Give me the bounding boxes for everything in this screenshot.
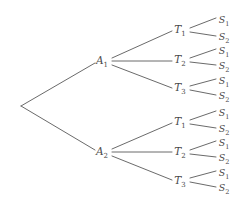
tree-edge-A2T2-A2T2S1 [190, 141, 216, 150]
tree-node-label-A1T3S2: S2 [219, 90, 230, 104]
tree-node-label-A2T2: T2 [174, 145, 185, 160]
tree-node-label-A2T3: T3 [174, 174, 185, 189]
tree-node-label-A2T1S1: S1 [219, 107, 230, 121]
tree-node-label-A1T1: T1 [174, 23, 185, 38]
tree-edge-A2T2-A2T2S2 [190, 154, 216, 157]
tree-node-label-A2T2S2: S2 [219, 152, 230, 166]
tree-edge-A2T1-A2T1S1 [190, 111, 216, 120]
tree-edge-A2T3-A2T3S1 [190, 171, 216, 178]
tree-edge-A1T2-A1T2S2 [190, 62, 216, 65]
tree-edge-A1T3-A1T3S1 [190, 79, 216, 86]
tree-edge-A2-A2T1 [112, 123, 172, 149]
tree-diagram: A1A2T1T2T3T1T2T3S1S2S1S2S1S2S1S2S1S2S1S2 [0, 0, 244, 205]
tree-edge-A1-A1T3 [112, 65, 172, 88]
tree-node-label-A1T2S1: S1 [219, 45, 230, 59]
tree-node-label-A2T3S1: S1 [219, 167, 230, 181]
tree-node-label-A1: A1 [95, 54, 108, 69]
tree-edge-A2T1-A2T1S2 [190, 124, 216, 128]
tree-diagram-canvas: A1A2T1T2T3T1T2T3S1S2S1S2S1S2S1S2S1S2S1S2 [0, 0, 244, 205]
tree-node-label-A1T2S2: S2 [219, 60, 230, 74]
node-layer: A1A2T1T2T3T1T2T3S1S2S1S2S1S2S1S2S1S2S1S2 [95, 14, 229, 196]
tree-node-label-A1T1S1: S1 [219, 14, 230, 28]
tree-edge-A2T3-A2T3S2 [190, 182, 216, 187]
tree-node-label-A2T1S2: S2 [219, 123, 230, 137]
tree-node-label-A2T3S2: S2 [219, 182, 230, 196]
tree-edge-A1T1-A1T1S1 [190, 18, 216, 28]
tree-edge-A1T3-A1T3S2 [190, 90, 216, 95]
tree-node-label-A1T1S2: S2 [219, 31, 230, 45]
tree-node-label-A1T2: T2 [174, 53, 185, 68]
tree-node-label-A1T3S1: S1 [219, 75, 230, 89]
tree-edge-root-A2 [21, 106, 95, 150]
tree-node-label-A2T1: T1 [174, 115, 185, 130]
tree-edge-A1T2-A1T2S1 [190, 49, 216, 58]
edge-layer [21, 18, 216, 187]
tree-edge-root-A1 [21, 63, 95, 106]
tree-node-label-A2T2S1: S1 [219, 137, 230, 151]
tree-node-label-A1T3: T3 [174, 81, 185, 96]
tree-edge-A2-A2T3 [112, 156, 172, 180]
tree-edge-A1-A1T1 [112, 31, 172, 58]
tree-edge-A1T1-A1T1S2 [190, 32, 216, 36]
tree-node-label-A2: A2 [95, 145, 108, 160]
